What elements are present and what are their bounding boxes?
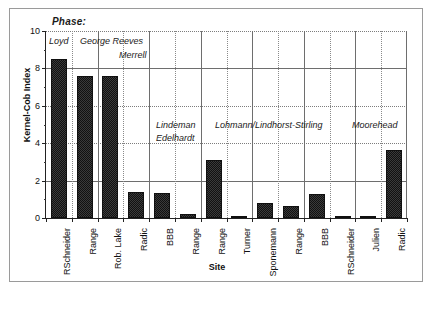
bar bbox=[77, 76, 93, 218]
bar bbox=[309, 194, 325, 218]
phase-annotation: Lindeman bbox=[156, 120, 196, 130]
phase-annotation: Lohmann/Lindhorst-Stirling bbox=[215, 120, 323, 130]
x-tick-label: RSchneider bbox=[346, 228, 356, 275]
x-tick-mark bbox=[407, 218, 408, 222]
x-tick-mark bbox=[98, 218, 99, 222]
phase-caption: Phase: bbox=[52, 16, 86, 27]
bar bbox=[206, 160, 222, 218]
bar bbox=[283, 206, 299, 218]
phase-annotation: Moorehead bbox=[352, 120, 398, 130]
x-tick-label: Range bbox=[191, 228, 201, 255]
x-tick-label: Range bbox=[217, 228, 227, 255]
bar bbox=[257, 203, 273, 218]
x-tick-mark bbox=[175, 218, 176, 222]
bar bbox=[51, 59, 67, 218]
bar bbox=[180, 214, 196, 218]
chart-figure: Phase: Kernel-Cob Index 0246810 Site RSc… bbox=[0, 0, 434, 312]
y-minor-tick bbox=[44, 125, 46, 126]
x-tick-mark bbox=[278, 218, 279, 222]
x-tick-label: Turner bbox=[242, 228, 252, 254]
bar bbox=[231, 216, 247, 218]
y-tick-mark bbox=[42, 181, 46, 182]
x-tick-mark bbox=[46, 218, 47, 222]
phase-annotation: Loyd bbox=[49, 36, 69, 46]
x-tick-label: Julien bbox=[371, 228, 381, 252]
y-tick-label: 10 bbox=[30, 27, 40, 36]
x-tick-label: BBB bbox=[320, 228, 330, 246]
x-tick-mark bbox=[330, 218, 331, 222]
y-tick-label: 4 bbox=[35, 139, 40, 148]
y-tick-mark bbox=[42, 68, 46, 69]
y-tick-label: 8 bbox=[35, 64, 40, 73]
y-tick-mark bbox=[42, 31, 46, 32]
x-tick-label: Range bbox=[88, 228, 98, 255]
x-gridline bbox=[201, 31, 202, 218]
x-tick-label: RSchneider bbox=[62, 228, 72, 275]
bar bbox=[128, 192, 144, 218]
x-tick-mark bbox=[304, 218, 305, 222]
x-tick-mark bbox=[123, 218, 124, 222]
phase-annotation: George Reeves bbox=[80, 36, 143, 46]
bar bbox=[335, 216, 351, 218]
x-tick-mark bbox=[201, 218, 202, 222]
x-tick-label: Sponemann bbox=[268, 228, 278, 277]
y-minor-tick bbox=[44, 199, 46, 200]
y-tick-label: 0 bbox=[35, 214, 40, 223]
x-tick-mark bbox=[149, 218, 150, 222]
x-tick-label: BBB bbox=[165, 228, 175, 246]
y-minor-tick bbox=[44, 50, 46, 51]
y-tick-label: 6 bbox=[35, 101, 40, 110]
phase-annotation: Edelhardt bbox=[156, 133, 195, 143]
y-axis-title: Kernel-Cob Index bbox=[22, 50, 32, 160]
x-gridline bbox=[149, 31, 150, 218]
y-tick-mark bbox=[42, 143, 46, 144]
phase-annotation: Merrell bbox=[119, 50, 147, 60]
y-tick-label: 2 bbox=[35, 176, 40, 185]
x-tick-mark bbox=[252, 218, 253, 222]
bar bbox=[360, 216, 376, 218]
y-tick-mark bbox=[42, 106, 46, 107]
x-tick-mark bbox=[72, 218, 73, 222]
x-tick-label: Radic bbox=[139, 228, 149, 251]
bar bbox=[386, 150, 402, 218]
x-tick-label: Rob. Lake bbox=[113, 228, 123, 269]
x-gridline bbox=[98, 31, 99, 218]
bar bbox=[154, 193, 170, 218]
x-gridline bbox=[72, 31, 73, 218]
x-tick-mark bbox=[355, 218, 356, 222]
x-tick-mark bbox=[227, 218, 228, 222]
bar bbox=[102, 76, 118, 218]
x-gridline bbox=[406, 31, 407, 218]
y-minor-tick bbox=[44, 162, 46, 163]
x-tick-mark bbox=[381, 218, 382, 222]
y-minor-tick bbox=[44, 87, 46, 88]
x-gridline bbox=[330, 31, 331, 218]
x-tick-label: Radic bbox=[397, 228, 407, 251]
x-tick-label: Range bbox=[294, 228, 304, 255]
